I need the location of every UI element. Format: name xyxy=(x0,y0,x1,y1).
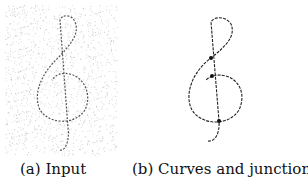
curves-junctions-image xyxy=(154,0,308,160)
clef-curve xyxy=(189,18,242,141)
caption-input: (a) Input xyxy=(20,160,86,178)
junction-marker xyxy=(210,74,214,78)
noisy-clef-image xyxy=(0,0,154,160)
junction-marker xyxy=(217,119,221,123)
caption-curves-junctions: (b) Curves and junctions xyxy=(132,160,308,178)
curves-panel xyxy=(154,0,308,160)
input-panel xyxy=(0,0,154,160)
junction-marker xyxy=(209,56,213,60)
